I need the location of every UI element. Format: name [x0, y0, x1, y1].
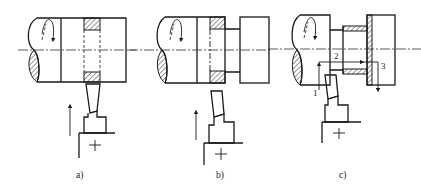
cutting-tool-a — [79, 84, 115, 158]
panel-label-a: a) — [76, 170, 83, 181]
panel-label-c: c) — [339, 170, 346, 181]
turning-diagram: a) b) — [0, 0, 421, 191]
step-label-2: 2 — [334, 51, 339, 61]
workpiece-c — [268, 15, 421, 85]
workpiece-a — [18, 18, 136, 82]
step-label-1: 1 — [313, 88, 318, 98]
panel-a: a) — [18, 18, 136, 181]
workpiece-b — [128, 17, 272, 83]
panel-b: b) — [128, 17, 272, 181]
panel-c: 1 2 3 c) — [268, 15, 421, 181]
panel-label-b: b) — [216, 170, 224, 181]
step-label-3: 3 — [381, 61, 386, 71]
cutting-tool-b — [204, 91, 243, 165]
